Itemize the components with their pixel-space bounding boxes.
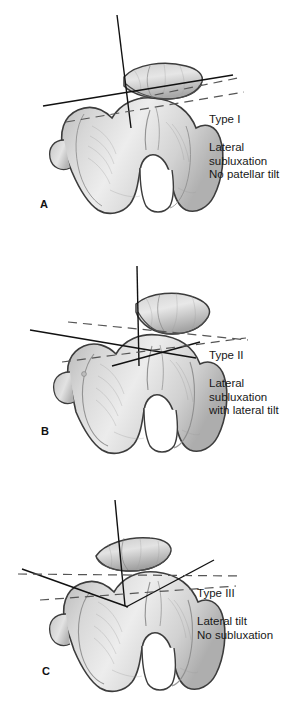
- panel-letter-c: C: [42, 666, 50, 677]
- panel-b-illustration: [0, 238, 298, 478]
- patella-b: [136, 292, 210, 334]
- dashed-reference-line-c-upper: [18, 574, 240, 576]
- type-label-a: Type I: [209, 114, 240, 126]
- femur-trochlea-a: [50, 98, 223, 214]
- description-a-line-1: Lateral: [209, 141, 279, 155]
- description-a: Lateral subluxation No patellar tilt: [209, 141, 279, 182]
- figure-root: A Type I Lateral subluxation No patellar…: [0, 0, 298, 722]
- description-c-line-2: No subluxation: [197, 629, 273, 643]
- panel-c-illustration: [0, 476, 298, 722]
- description-b-line-1: Lateral: [209, 377, 279, 391]
- description-b: Lateral subluxation with lateral tilt: [209, 377, 279, 418]
- type-label-b: Type II: [209, 350, 244, 362]
- description-a-line-3: No patellar tilt: [209, 168, 279, 182]
- type-label-c: Type III: [197, 588, 235, 600]
- description-a-line-2: subluxation: [209, 155, 279, 169]
- clipped-bottom-edge: [0, 712, 298, 722]
- panel-letter-a: A: [40, 199, 48, 210]
- description-c-line-1: Lateral tilt: [197, 615, 273, 629]
- panel-letter-b: B: [41, 426, 49, 437]
- description-c: Lateral tilt No subluxation: [197, 615, 273, 642]
- femur-trochlea-b: [54, 335, 227, 454]
- description-b-line-2: subluxation: [209, 391, 279, 405]
- patella-c: [96, 538, 171, 571]
- description-b-line-3: with lateral tilt: [209, 404, 279, 418]
- panel-type-ii: B Type II Lateral subluxation with later…: [0, 238, 298, 478]
- panel-type-iii: C Type III Lateral tilt No subluxation: [0, 476, 298, 722]
- panel-type-i: A Type I Lateral subluxation No patellar…: [0, 0, 298, 240]
